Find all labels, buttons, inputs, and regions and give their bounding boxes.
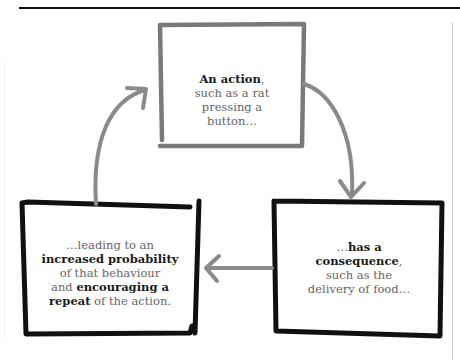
action-line-1: such as a rat: [160, 86, 304, 100]
repeat-heading-2: encouraging a: [76, 280, 169, 294]
consequence-line-1: such as the: [276, 268, 442, 282]
action-line-2: pressing a: [160, 100, 304, 114]
arrow-left-icon: [206, 256, 272, 281]
consequence-node-text: …has a consequence, such as the delivery…: [276, 240, 442, 296]
repeat-heading-1: increased probability: [42, 252, 179, 266]
curved-arrow-down-icon: [304, 84, 364, 197]
action-node-text: An action, such as a rat pressing a butt…: [160, 72, 304, 128]
repeat-line-3: of that behaviour: [22, 266, 198, 280]
consequence-heading-2: consequence: [316, 254, 399, 268]
action-line-3: button…: [160, 114, 304, 128]
curved-arrow-up-icon: [95, 88, 146, 204]
consequence-line-2: delivery of food…: [276, 282, 442, 296]
consequence-heading-1: has a: [348, 240, 382, 254]
repeat-heading-3: repeat: [49, 294, 91, 308]
repeat-node-text: …leading to an increased probability of …: [22, 238, 198, 308]
repeat-line-1: …leading to an: [22, 238, 198, 252]
action-heading: An action: [199, 72, 260, 86]
